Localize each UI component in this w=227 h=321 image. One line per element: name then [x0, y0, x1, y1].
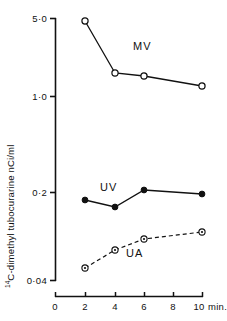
x-tick-label-4: 4: [112, 301, 118, 312]
series-uv-point: [112, 204, 118, 210]
x-tick-label-0: 0: [52, 301, 58, 312]
series-mv-point: [141, 73, 147, 79]
x-axis-unit-label: min.: [208, 301, 227, 312]
y-axis: [50, 18, 56, 281]
x-tick-label-2: 2: [82, 301, 88, 312]
figure-panel: 14C-dimethyl tubocurarine nCi/ml 5·0 1·0…: [0, 0, 227, 321]
series-uv-point: [199, 191, 205, 197]
series-uv-point: [141, 187, 147, 193]
series-ua-point: [141, 236, 147, 242]
series-uv-point: [82, 197, 88, 203]
series-mv-point: [82, 18, 88, 24]
x-tick-label-6: 6: [141, 301, 147, 312]
series-label-uv: UV: [100, 181, 117, 193]
series-ua-point: [199, 229, 205, 235]
series-mv: [82, 18, 205, 89]
y-tick-label-5-0: 5·0: [32, 13, 47, 24]
series-ua: [82, 229, 205, 271]
y-tick-label-1-0: 1·0: [32, 91, 47, 102]
series-mv-point: [112, 70, 118, 76]
x-tick-label-10: 10: [193, 301, 204, 312]
series-ua-point: [112, 247, 118, 253]
y-tick-label-0-2: 0·2: [32, 187, 47, 198]
y-tick-label-0-04: 0·04: [27, 275, 47, 286]
series-mv-point: [199, 83, 205, 89]
chart-plot-area: 5·0 1·0 0·2 0·04 0 2 4 6 8 10 min. MV: [0, 0, 227, 321]
series-label-ua: UA: [126, 247, 143, 259]
series-label-mv: MV: [133, 40, 152, 52]
x-tick-label-8: 8: [170, 301, 176, 312]
series-ua-point: [82, 265, 88, 271]
x-axis: [55, 292, 203, 297]
